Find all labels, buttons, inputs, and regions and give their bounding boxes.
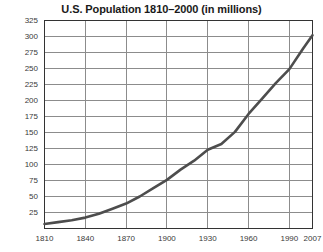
data-series-line — [45, 35, 313, 224]
y-tick-label: 150 — [12, 129, 38, 137]
y-tick-label: 200 — [12, 97, 38, 105]
y-tick-label: 175 — [12, 113, 38, 121]
population-trend-line — [45, 35, 313, 224]
x-tick-label: 1900 — [150, 235, 184, 243]
y-tick-label: 125 — [12, 145, 38, 153]
x-tick-label: 1840 — [68, 235, 102, 243]
y-tick-label: 300 — [12, 33, 38, 41]
chart-figure: U.S. Population 1810–2000 (in millions) … — [0, 0, 323, 252]
x-tick-label: 1960 — [232, 235, 266, 243]
y-tick-label: 250 — [12, 65, 38, 73]
x-tick-label: 1810 — [28, 235, 62, 243]
y-tick-label: 100 — [12, 161, 38, 169]
grid-lines — [45, 21, 313, 229]
x-tick-label: 1870 — [109, 235, 143, 243]
y-tick-label: 325 — [12, 17, 38, 25]
plot-border — [45, 21, 313, 229]
y-tick-label: 50 — [12, 193, 38, 201]
x-tick-label: 1930 — [191, 235, 225, 243]
y-tick-label: 225 — [12, 81, 38, 89]
y-tick-label: 25 — [12, 209, 38, 217]
y-tick-label: 75 — [12, 177, 38, 185]
x-tick-label: 2007 — [296, 235, 323, 243]
y-tick-label: 275 — [12, 49, 38, 57]
plot-frame — [45, 21, 313, 229]
population-line-chart — [0, 0, 323, 252]
